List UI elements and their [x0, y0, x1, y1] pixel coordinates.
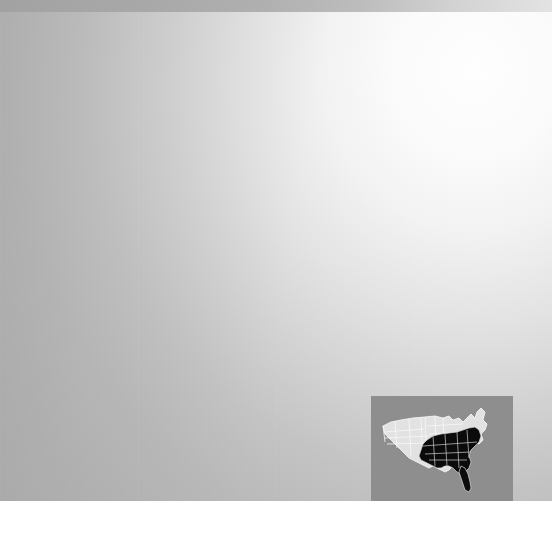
inset-map-svg[interactable] [371, 396, 513, 501]
inset-florida [459, 466, 471, 492]
background-top-band [0, 0, 552, 12]
inset-locator-panel[interactable] [371, 396, 513, 501]
page-bottom-margin [0, 501, 552, 537]
map-viewport [0, 0, 552, 537]
